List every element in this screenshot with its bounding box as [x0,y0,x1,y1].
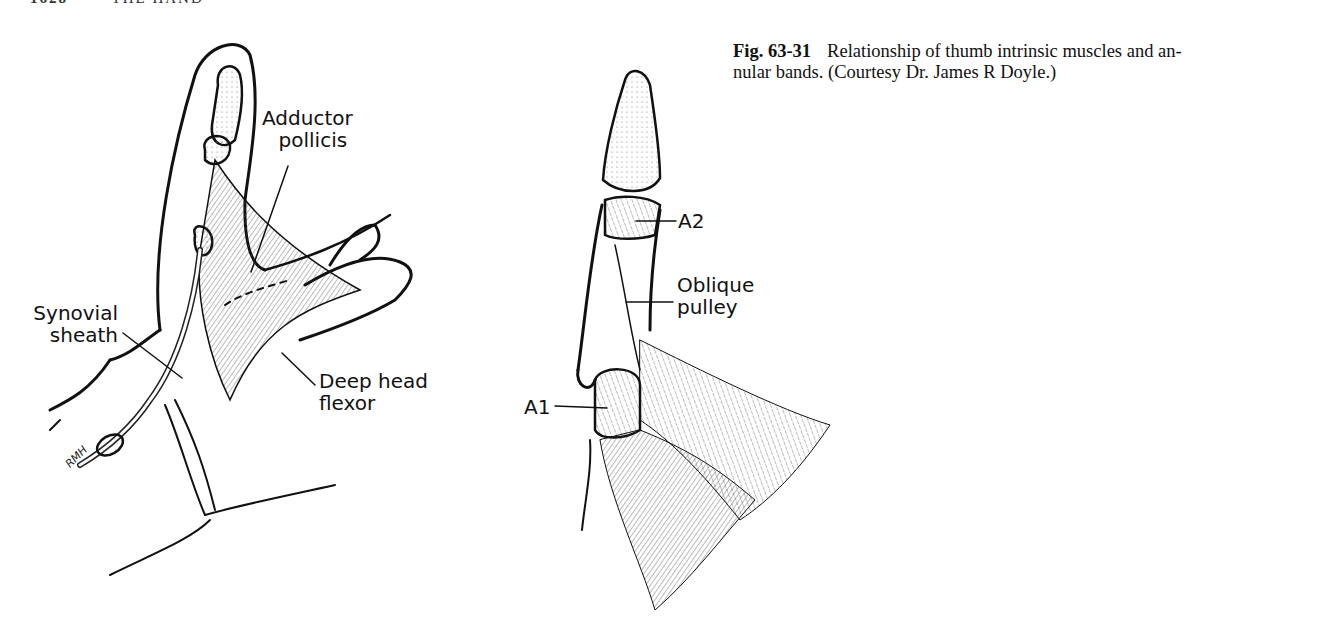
label-adductor-line1: Adductor [262,107,353,129]
label-adductor-pollicis: Adductor pollicis [262,107,353,151]
label-deep-line2: flexor [319,392,428,414]
right-thumb-drawing [555,71,830,610]
label-a2: A2 [678,210,704,232]
thumb-anatomy-illustration: RMH [0,0,1343,636]
caption-line2: nular bands. (Courtesy Dr. James R Doyle… [733,62,1333,83]
label-oblique-line1: Oblique [677,274,754,296]
label-deep-head-flexor: Deep head flexor [319,370,428,414]
artist-signature: RMH [63,443,90,470]
label-oblique-line2: pulley [677,296,754,318]
figure-caption: Fig. 63-31Relationship of thumb intrinsi… [733,41,1333,83]
caption-line1: Relationship of thumb intrinsic muscles … [827,41,1182,61]
figure-number: Fig. 63-31 [733,41,811,61]
label-synovial-sheath: Synovial sheath [28,302,118,346]
label-a1: A1 [524,396,550,418]
label-adductor-line2: pollicis [262,129,353,151]
label-synovial-line1: Synovial [28,302,118,324]
label-synovial-line2: sheath [28,324,118,346]
label-oblique-pulley: Oblique pulley [677,274,754,318]
label-deep-line1: Deep head [319,370,428,392]
